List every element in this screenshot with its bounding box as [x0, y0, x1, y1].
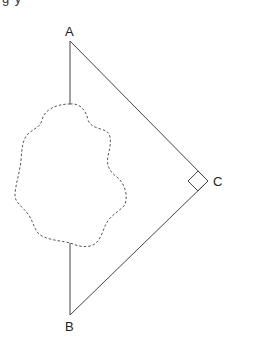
vertex-label-b: B — [65, 319, 74, 334]
vertex-label-c: C — [213, 174, 222, 189]
right-angle-marker — [188, 171, 208, 191]
segment-ac — [70, 41, 208, 181]
obstacle-region — [15, 104, 126, 247]
segment-bc — [70, 181, 208, 315]
geometry-diagram: A B C — [0, 0, 255, 343]
vertex-label-a: A — [65, 24, 74, 39]
